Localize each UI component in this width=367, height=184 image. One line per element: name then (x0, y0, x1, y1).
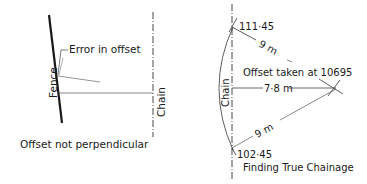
offset-note-label: Offset taken at 10695 (243, 67, 352, 78)
lower-tie-length-label: 9 m (253, 121, 275, 140)
fence-label: Fence (47, 67, 59, 98)
error-leader (58, 50, 68, 75)
right-caption: Finding True Chainage (243, 162, 354, 173)
lower-tick (232, 148, 236, 155)
upper-tick (229, 18, 237, 32)
upper-tie-line-b (287, 60, 292, 62)
offset-length-label: 7·8 m (264, 83, 293, 94)
error-in-offset-label: Error in offset (69, 43, 141, 55)
upper-tie-length-label: 9 m (257, 38, 279, 57)
lower-tie-line-a (232, 136, 253, 148)
slanted-offset-line (58, 76, 100, 82)
diagram-canvas: Error in offset Fence Chain Offset not p… (0, 0, 367, 184)
right-figure-finding-true-chainage: 111·45 9 m Offset taken at 10695 7·8 m 9… (219, 4, 354, 180)
left-caption: Offset not perpendicular (20, 138, 149, 150)
lower-chainage-label: 102·45 (237, 149, 272, 160)
upper-chainage-label: 111·45 (239, 21, 274, 32)
left-figure-offset-not-perpendicular: Error in offset Fence Chain Offset not p… (20, 12, 167, 150)
right-chain-label: Chain (220, 78, 231, 107)
left-chain-label: Chain (155, 87, 167, 117)
